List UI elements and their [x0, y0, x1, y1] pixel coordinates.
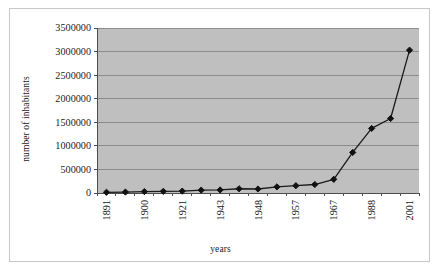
- y-axis-title: number of inhabitants: [21, 64, 31, 174]
- svg-text:1948: 1948: [253, 200, 264, 220]
- svg-text:2000000: 2000000: [55, 93, 91, 104]
- svg-text:0: 0: [86, 187, 91, 198]
- svg-text:500000: 500000: [60, 164, 91, 175]
- x-axis-tick-labels: 189119001921194319481957196719882001: [101, 200, 415, 220]
- chart-figure: 0500000100000015000002000000250000030000…: [0, 0, 442, 273]
- svg-text:1921: 1921: [177, 200, 188, 220]
- svg-text:2001: 2001: [404, 200, 415, 220]
- svg-text:1900: 1900: [139, 200, 150, 220]
- x-axis-title: years: [10, 244, 431, 254]
- y-axis-tick-labels: 0500000100000015000002000000250000030000…: [55, 22, 91, 198]
- svg-text:1891: 1891: [101, 200, 112, 220]
- svg-text:1988: 1988: [366, 200, 377, 220]
- svg-text:1000000: 1000000: [55, 140, 91, 151]
- svg-text:2500000: 2500000: [55, 70, 91, 81]
- svg-text:1943: 1943: [215, 200, 226, 220]
- chart-frame: 0500000100000015000002000000250000030000…: [9, 8, 430, 262]
- svg-text:1967: 1967: [328, 200, 339, 220]
- svg-text:3500000: 3500000: [55, 22, 91, 33]
- svg-text:3000000: 3000000: [55, 46, 91, 57]
- line-chart-plot: 0500000100000015000002000000250000030000…: [10, 9, 431, 263]
- plot-background: [97, 28, 419, 193]
- svg-text:1957: 1957: [290, 200, 301, 220]
- svg-text:1500000: 1500000: [55, 117, 91, 128]
